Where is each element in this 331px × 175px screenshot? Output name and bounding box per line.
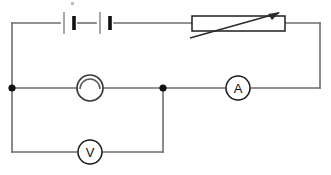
ammeter-label: A bbox=[234, 81, 243, 96]
voltmeter-symbol: V bbox=[78, 140, 102, 164]
circuit-diagram: A V bbox=[0, 0, 331, 175]
junction-dot-left bbox=[8, 84, 15, 91]
battery-cell-2 bbox=[100, 12, 110, 34]
scan-artifact-speck bbox=[71, 2, 74, 5]
ammeter-symbol: A bbox=[226, 76, 250, 100]
junction-dot-middle bbox=[159, 84, 166, 91]
lamp-symbol bbox=[77, 75, 103, 101]
rheostat-symbol bbox=[190, 12, 285, 38]
voltmeter-label: V bbox=[86, 145, 95, 160]
battery-cell-1 bbox=[64, 12, 74, 34]
circuit-svg: A V bbox=[0, 0, 331, 175]
